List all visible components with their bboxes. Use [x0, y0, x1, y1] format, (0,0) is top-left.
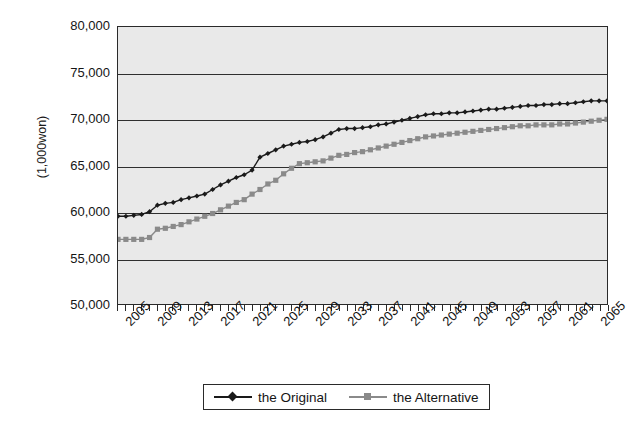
- data-point-marker: [352, 126, 357, 131]
- data-point-marker: [202, 214, 207, 219]
- data-point-marker: [581, 120, 586, 125]
- data-point-marker: [163, 226, 168, 231]
- data-point-marker: [273, 147, 278, 152]
- data-point-marker: [423, 112, 428, 117]
- data-point-marker: [218, 207, 223, 212]
- data-point-marker: [455, 110, 460, 115]
- data-point-marker: [328, 156, 333, 161]
- data-point-marker: [407, 116, 412, 121]
- data-point-marker: [533, 122, 538, 127]
- data-point-marker: [470, 129, 475, 134]
- data-point-marker: [320, 134, 325, 139]
- x-tick-label: 2041: [408, 319, 418, 329]
- data-point-marker: [447, 132, 452, 137]
- data-point-marker: [470, 108, 475, 113]
- data-point-marker: [297, 161, 302, 166]
- data-point-marker: [478, 128, 483, 133]
- chart-legend: the Originalthe Alternative: [203, 384, 490, 410]
- data-point-marker: [210, 211, 215, 216]
- data-point-marker: [368, 147, 373, 152]
- legend-entry[interactable]: the Alternative: [349, 390, 479, 405]
- data-point-marker: [415, 136, 420, 141]
- data-point-marker: [344, 152, 349, 157]
- y-tick-label: 65,000: [30, 159, 110, 172]
- data-point-marker: [297, 140, 302, 145]
- data-point-marker: [462, 130, 467, 135]
- x-tick-label: 2005: [123, 319, 133, 329]
- data-point-marker: [163, 201, 168, 206]
- data-point-marker: [399, 118, 404, 123]
- data-point-marker: [502, 106, 507, 111]
- data-point-marker: [313, 159, 318, 164]
- y-tick-label: 60,000: [30, 205, 110, 218]
- data-point-marker: [573, 100, 578, 105]
- data-point-marker: [147, 235, 152, 240]
- series-the-alternative: [118, 117, 607, 242]
- data-point-marker: [415, 114, 420, 119]
- data-point-marker: [486, 127, 491, 132]
- data-point-marker: [597, 98, 602, 103]
- data-point-marker: [194, 216, 199, 221]
- data-point-marker: [234, 175, 239, 180]
- data-point-marker: [336, 127, 341, 132]
- data-point-marker: [518, 104, 523, 109]
- data-point-marker: [423, 134, 428, 139]
- data-point-marker: [242, 197, 247, 202]
- legend-swatch-diamond-icon: [214, 391, 252, 403]
- data-point-marker: [494, 126, 499, 131]
- data-point-marker: [494, 107, 499, 112]
- x-tick-label: 2053: [503, 319, 513, 329]
- data-point-marker: [226, 179, 231, 184]
- data-point-marker: [118, 237, 121, 242]
- data-point-marker: [171, 200, 176, 205]
- data-point-marker: [565, 121, 570, 126]
- data-point-marker: [589, 98, 594, 103]
- data-point-marker: [305, 139, 310, 144]
- data-point-marker: [455, 131, 460, 136]
- data-point-marker: [439, 111, 444, 116]
- data-point-marker: [179, 197, 184, 202]
- x-tick-label: 2065: [598, 319, 608, 329]
- data-point-marker: [526, 123, 531, 128]
- x-tick-label: 2017: [218, 319, 228, 329]
- legend-entry[interactable]: the Original: [214, 390, 327, 405]
- data-point-marker: [391, 142, 396, 147]
- data-point-marker: [407, 138, 412, 143]
- data-point-marker: [194, 193, 199, 198]
- data-point-marker: [139, 212, 144, 217]
- data-point-marker: [518, 123, 523, 128]
- data-point-marker: [336, 153, 341, 158]
- data-point-marker: [573, 120, 578, 125]
- x-tick-label: 2061: [566, 319, 576, 329]
- y-tick-label: 80,000: [30, 19, 110, 32]
- data-point-marker: [265, 181, 270, 186]
- data-point-marker: [431, 133, 436, 138]
- x-tick-label: 2029: [313, 319, 323, 329]
- data-point-marker: [549, 102, 554, 107]
- data-point-marker: [589, 119, 594, 124]
- data-point-marker: [289, 166, 294, 171]
- data-point-marker: [604, 98, 607, 103]
- data-point-marker: [502, 125, 507, 130]
- data-point-marker: [557, 101, 562, 106]
- data-point-marker: [171, 224, 176, 229]
- data-point-marker: [123, 214, 128, 219]
- series-line: [118, 101, 607, 216]
- data-point-marker: [447, 110, 452, 115]
- data-point-marker: [478, 108, 483, 113]
- data-point-marker: [391, 120, 396, 125]
- x-tick-label: 2057: [535, 319, 545, 329]
- data-point-marker: [131, 237, 136, 242]
- y-tick-label: 70,000: [30, 112, 110, 125]
- legend-swatch-square-icon: [349, 391, 387, 403]
- x-tick-label: 2009: [155, 319, 165, 329]
- data-point-marker: [533, 103, 538, 108]
- data-point-marker: [281, 144, 286, 149]
- data-point-marker: [186, 195, 191, 200]
- data-point-marker: [439, 132, 444, 137]
- x-tick-label: 2033: [345, 319, 355, 329]
- data-point-marker: [431, 111, 436, 116]
- data-point-marker: [131, 213, 136, 218]
- data-point-marker: [360, 149, 365, 154]
- legend-label: the Original: [258, 390, 327, 405]
